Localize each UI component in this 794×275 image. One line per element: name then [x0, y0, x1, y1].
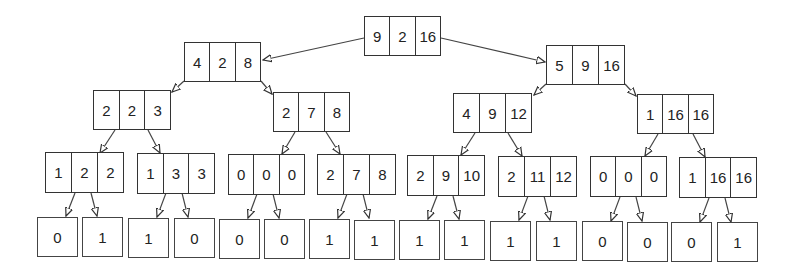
node-cell: 2	[71, 153, 97, 192]
node-cell: 1	[638, 95, 662, 133]
tree-leaf: 0	[174, 218, 215, 258]
node-cell: 11	[524, 157, 550, 196]
node-cell: 10	[458, 156, 484, 195]
node-cell: 3	[163, 154, 189, 193]
node-cell: 2	[97, 153, 123, 192]
tree-leaf: 1	[536, 221, 577, 261]
tree-node-l3: 2 11 12	[498, 156, 577, 197]
tree-leaf: 1	[399, 220, 440, 260]
node-cell: 0	[229, 155, 253, 194]
tree-node-l1-right: 5 9 16	[546, 45, 625, 85]
node-cell: 12	[505, 94, 531, 132]
tree-node-l2: 1 16 16	[637, 94, 714, 134]
tree-leaf: 0	[627, 222, 668, 262]
node-cell: 0	[591, 157, 615, 196]
node-cell: 8	[324, 93, 349, 131]
node-cell: 8	[235, 43, 260, 81]
tree-leaf: 1	[82, 217, 123, 257]
node-cell: 2	[94, 91, 119, 129]
node-cell: 4	[185, 43, 209, 81]
node-cell: 16	[688, 95, 713, 133]
tree-node-l3: 1 2 2	[45, 152, 124, 193]
tree-leaf: 1	[717, 222, 758, 262]
node-cell: 9	[365, 17, 389, 55]
node-cell: 1	[680, 158, 705, 197]
tree-node-l3: 1 16 16	[679, 157, 757, 198]
node-cell: 5	[547, 46, 572, 84]
node-cell: 7	[298, 93, 323, 131]
tree-node-l3: 1 3 3	[137, 153, 215, 194]
node-cell: 2	[274, 93, 298, 131]
node-cell: 0	[279, 155, 304, 194]
node-cell: 2	[408, 156, 433, 195]
node-cell: 16	[730, 158, 756, 197]
node-cell: 16	[705, 158, 731, 197]
node-cell: 3	[144, 91, 170, 129]
node-cell: 0	[641, 157, 666, 196]
node-cell: 0	[253, 155, 278, 194]
tree-leaf: 1	[309, 219, 350, 259]
tree-node-l3: 2 9 10	[407, 155, 485, 196]
tree-leaf: 0	[671, 222, 712, 262]
node-cell: 2	[499, 157, 524, 196]
node-cell: 1	[138, 154, 163, 193]
tree-leaf: 0	[264, 219, 305, 259]
tree-node-l2: 2 7 8	[273, 92, 350, 132]
node-cell: 0	[615, 157, 640, 196]
tree-leaf: 1	[490, 221, 531, 261]
node-cell: 2	[209, 43, 234, 81]
node-cell: 9	[572, 46, 598, 84]
node-cell: 16	[598, 46, 624, 84]
node-cell: 9	[433, 156, 459, 195]
tree-leaf: 0	[582, 221, 623, 261]
tree-leaf: 1	[128, 218, 169, 258]
node-cell: 12	[550, 157, 576, 196]
tree-node-root: 9 2 16	[364, 16, 441, 56]
tree-node-l1-left: 4 2 8	[184, 42, 261, 82]
node-cell: 2	[389, 17, 414, 55]
tree-node-l3: 2 7 8	[317, 154, 396, 195]
node-cell: 8	[369, 155, 395, 194]
tree-node-l3: 0 0 0	[590, 156, 667, 197]
tree-node-l2: 4 9 12	[453, 93, 532, 133]
node-cell: 2	[318, 155, 343, 194]
node-cell: 4	[454, 94, 479, 132]
node-cell: 9	[479, 94, 505, 132]
tree-leaf: 1	[354, 220, 395, 260]
tree-leaf: 0	[37, 217, 78, 257]
node-cell: 7	[343, 155, 369, 194]
node-cell: 2	[119, 91, 145, 129]
tree-leaf: 0	[219, 219, 260, 259]
tree-node-l3: 0 0 0	[228, 154, 305, 195]
node-cell: 3	[188, 154, 214, 193]
tree-node-l2: 2 2 3	[93, 90, 171, 130]
tree-leaf: 1	[444, 220, 485, 260]
node-cell: 1	[46, 153, 71, 192]
node-cell: 16	[662, 95, 687, 133]
node-cell: 16	[415, 17, 440, 55]
